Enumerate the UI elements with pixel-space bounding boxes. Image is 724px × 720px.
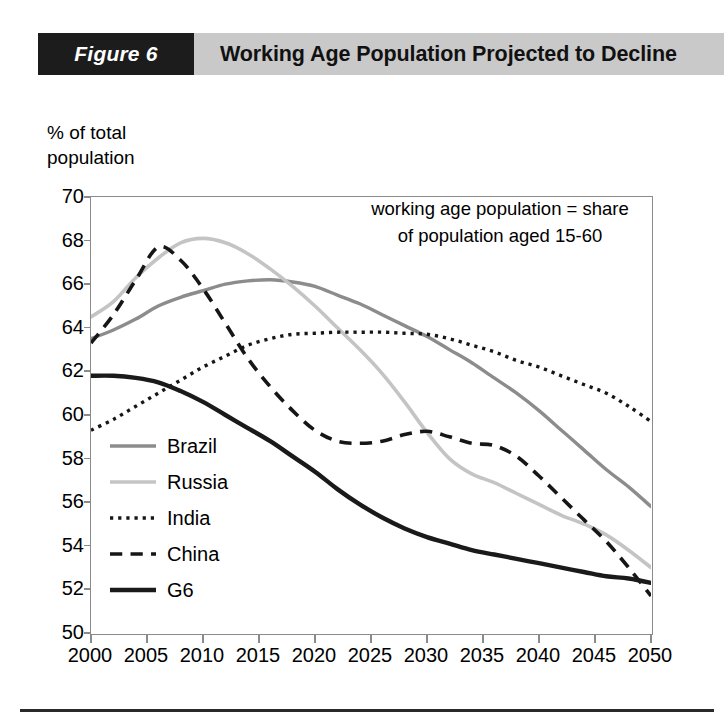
y-tick-mark — [84, 588, 91, 590]
y-tick-mark — [84, 370, 91, 372]
x-tick-label: 2015 — [228, 643, 288, 667]
y-tick-mark — [84, 545, 91, 547]
y-tick-label: 50 — [44, 622, 84, 642]
chart-legend: BrazilRussiaIndiaChinaG6 — [110, 428, 290, 608]
legend-swatch-brazil-icon — [110, 439, 158, 453]
y-tick-mark — [84, 414, 91, 416]
legend-label: India — [167, 508, 210, 528]
legend-swatch-russia-icon — [110, 475, 158, 489]
y-tick-mark — [84, 632, 91, 634]
x-tick-mark — [258, 635, 260, 643]
y-tick-mark — [84, 196, 91, 198]
x-tick-mark — [650, 635, 652, 643]
chart-annotation: working age population = share of popula… — [352, 195, 648, 249]
x-tick-label: 2005 — [116, 643, 176, 667]
y-tick-mark — [84, 327, 91, 329]
series-line-india — [91, 332, 651, 430]
x-tick-mark — [370, 635, 372, 643]
x-axis-tick-labels: 2000200520102015202020252030203520402045… — [0, 643, 724, 673]
y-tick-label: 62 — [44, 360, 84, 380]
legend-item-india[interactable]: India — [110, 500, 290, 536]
x-tick-label: 2030 — [396, 643, 456, 667]
legend-item-brazil[interactable]: Brazil — [110, 428, 290, 464]
x-tick-label: 2020 — [284, 643, 344, 667]
legend-swatch-g6-icon — [110, 583, 158, 597]
figure-header: Figure 6 Working Age Population Projecte… — [38, 33, 724, 75]
y-tick-label: 60 — [44, 404, 84, 424]
y-tick-mark — [84, 458, 91, 460]
x-tick-mark — [202, 635, 204, 643]
x-tick-mark — [594, 635, 596, 643]
y-axis-title: % of total population — [47, 120, 135, 170]
figure-number-badge: Figure 6 — [38, 33, 194, 75]
legend-item-russia[interactable]: Russia — [110, 464, 290, 500]
y-tick-label: 56 — [44, 491, 84, 511]
legend-label: China — [167, 544, 219, 564]
x-tick-mark — [426, 635, 428, 643]
x-tick-mark — [146, 635, 148, 643]
legend-label: Russia — [167, 472, 228, 492]
y-tick-label: 66 — [44, 273, 84, 293]
x-tick-label: 2045 — [564, 643, 624, 667]
bottom-divider — [20, 709, 714, 712]
legend-label: G6 — [167, 580, 194, 600]
x-tick-label: 2010 — [172, 643, 232, 667]
x-tick-label: 2050 — [620, 643, 680, 667]
figure-title: Working Age Population Projected to Decl… — [194, 33, 724, 75]
y-tick-label: 70 — [44, 186, 84, 206]
y-tick-label: 68 — [44, 230, 84, 250]
y-tick-label: 54 — [44, 535, 84, 555]
y-tick-mark — [84, 240, 91, 242]
legend-item-g6[interactable]: G6 — [110, 572, 290, 608]
legend-label: Brazil — [167, 436, 217, 456]
x-tick-mark — [538, 635, 540, 643]
x-tick-label: 2035 — [452, 643, 512, 667]
chart-container: % of total population 505254565860626466… — [0, 95, 724, 675]
y-tick-mark — [84, 501, 91, 503]
legend-swatch-china-icon — [110, 547, 158, 561]
x-tick-mark — [482, 635, 484, 643]
x-tick-mark — [90, 635, 92, 643]
y-tick-label: 64 — [44, 317, 84, 337]
legend-item-china[interactable]: China — [110, 536, 290, 572]
y-axis-tick-labels: 5052545658606264666870 — [40, 196, 84, 635]
y-tick-label: 52 — [44, 578, 84, 598]
y-tick-mark — [84, 283, 91, 285]
x-tick-label: 2025 — [340, 643, 400, 667]
legend-swatch-india-icon — [110, 511, 158, 525]
x-tick-label: 2000 — [60, 643, 120, 667]
x-tick-mark — [314, 635, 316, 643]
y-tick-label: 58 — [44, 448, 84, 468]
x-tick-label: 2040 — [508, 643, 568, 667]
